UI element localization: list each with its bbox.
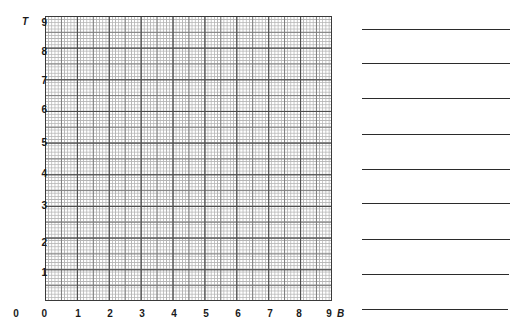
answer-line-4[interactable] xyxy=(362,134,510,135)
x-tick-label-7: 7 xyxy=(262,309,278,319)
x-tick-label-6: 6 xyxy=(230,309,246,319)
answer-line-9[interactable] xyxy=(362,309,508,310)
x-axis-name: B xyxy=(337,309,344,319)
y-axis-name: T xyxy=(22,17,28,27)
x-tick-label-1: 1 xyxy=(70,309,86,319)
y-tick-label-8: 8 xyxy=(31,47,47,57)
answer-line-6[interactable] xyxy=(362,203,510,204)
x-tick-label-9: 9 xyxy=(321,309,337,319)
x-tick-label-8: 8 xyxy=(291,309,307,319)
y-tick-label-7: 7 xyxy=(31,76,47,86)
y-tick-label-2: 2 xyxy=(31,238,47,248)
answer-line-7[interactable] xyxy=(362,239,510,240)
answer-line-1[interactable] xyxy=(362,29,510,30)
graph-paper-panel xyxy=(45,16,332,301)
y-tick-label-5: 5 xyxy=(31,138,47,148)
y-tick-label-9: 9 xyxy=(31,18,47,28)
answer-line-8[interactable] xyxy=(362,274,509,275)
answer-lines-panel xyxy=(362,0,512,336)
answer-line-2[interactable] xyxy=(362,63,510,64)
x-tick-label-3: 3 xyxy=(134,309,150,319)
y-tick-label-4: 4 xyxy=(31,169,47,179)
x-tick-label-5: 5 xyxy=(198,309,214,319)
x-tick-label-2: 2 xyxy=(102,309,118,319)
answer-line-3[interactable] xyxy=(362,98,510,99)
y-tick-label-6: 6 xyxy=(31,105,47,115)
x-tick-label-0: 0 xyxy=(8,309,24,319)
y-tick-label-1: 1 xyxy=(31,268,47,278)
x-tick-label-4: 4 xyxy=(166,309,182,319)
worksheet-page: T 9 8 7 6 5 4 3 2 1 0 0 1 2 3 4 5 6 7 8 … xyxy=(0,0,527,336)
graph-grid xyxy=(45,16,332,301)
y-tick-label-3: 3 xyxy=(31,201,47,211)
answer-line-5[interactable] xyxy=(362,169,510,170)
y-tick-label-0: 0 xyxy=(31,309,47,319)
